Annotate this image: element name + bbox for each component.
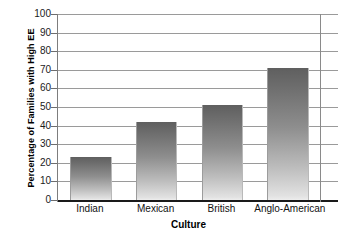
plot-area [57,14,320,200]
y-axis-tick-label: 100 [5,9,51,19]
bar [267,68,308,200]
y-axis-tick-label: 50 [5,102,51,112]
y-axis-tick-label: 30 [5,139,51,149]
bar [70,157,111,200]
x-axis-tick-label: Mexican [123,203,189,215]
x-axis-tick-label: Indian [57,203,123,215]
y-axis-tick-labels: 1009080706050403020100 [0,0,51,245]
axis-baseline [57,200,338,202]
bar [136,122,177,200]
x-axis-tick-labels: IndianMexicanBritishAnglo-American [57,203,338,219]
plot-right-edge [320,14,321,202]
y-axis-tick-label: 70 [5,65,51,75]
x-axis-tick-label: Anglo-American [254,203,320,215]
y-axis-tick-label: 60 [5,83,51,93]
y-axis-tick-label: 80 [5,46,51,56]
y-axis-tick-label: 40 [5,121,51,131]
y-axis-tick-label: 10 [5,176,51,186]
x-axis-title: Culture [57,219,320,230]
y-axis-tick-label: 90 [5,28,51,38]
x-axis-tick-label: British [189,203,255,215]
bar-chart: Percentage of Families with High EE 1009… [0,0,345,245]
y-axis-tick-label: 20 [5,158,51,168]
bar [202,105,243,200]
y-axis-tick-label: 0 [5,195,51,205]
